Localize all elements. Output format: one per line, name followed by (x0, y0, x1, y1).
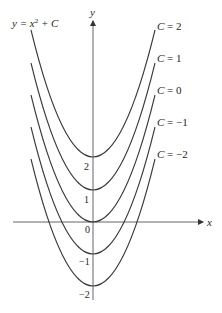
equation-label: y = x2 + C (11, 17, 59, 29)
tick-label-1: 1 (84, 194, 89, 205)
x-axis-label: x (206, 216, 212, 228)
parabola-family-chart: y = x2 + C x y 2 1 0 −1 −2 C = 2 C = 1 C… (0, 0, 222, 313)
y-axis-label: y (89, 6, 95, 18)
tick-label-minus-1: −1 (79, 256, 90, 267)
curve-label-c-minus-1: C = −1 (157, 116, 188, 128)
tick-label-2: 2 (84, 161, 89, 172)
tick-label-minus-2: −2 (79, 289, 90, 300)
tick-label-0: 0 (85, 224, 90, 235)
curve-label-c-minus-2: C = −2 (157, 148, 188, 160)
curve-label-c-2: C = 2 (157, 20, 182, 32)
curve-label-c-1: C = 1 (157, 52, 182, 64)
curve-label-c-0: C = 0 (157, 84, 182, 96)
